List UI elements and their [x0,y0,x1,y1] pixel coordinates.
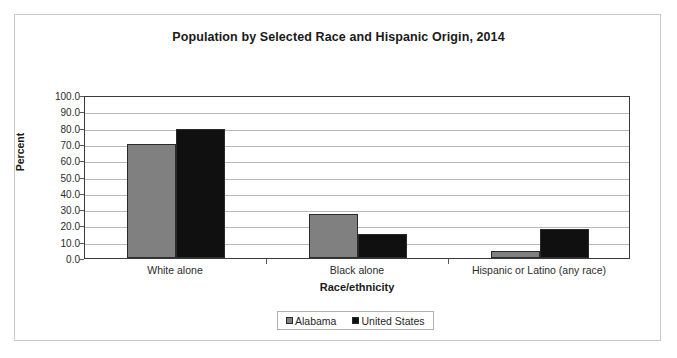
y-axis-tick-label: 60.0 [36,156,80,167]
bar [491,251,540,258]
y-axis-tick-label: 40.0 [36,188,80,199]
y-axis-tick-label: 80.0 [36,123,80,134]
y-axis-tick-label: 90.0 [36,107,80,118]
legend-entry: Alabama [286,315,336,327]
legend-swatch-icon [352,317,359,324]
gridline [85,113,629,114]
chart-title: Population by Selected Race and Hispanic… [0,30,677,44]
x-axis-tick-label: White alone [147,264,202,276]
y-axis-tick-label: 20.0 [36,221,80,232]
x-axis-tick-label: Hispanic or Latino (any race) [472,264,606,276]
bar [176,129,225,258]
legend-entry: United States [352,315,424,327]
plot-area [84,96,630,259]
bar [540,229,589,258]
legend-label: Alabama [295,315,336,327]
x-axis-title: Race/ethnicity [84,281,630,293]
legend-swatch-icon [286,317,293,324]
chart-figure: Population by Selected Race and Hispanic… [0,0,677,358]
bar [358,234,407,258]
y-axis-title: Percent [14,102,26,202]
chart-legend: AlabamaUnited States [277,311,434,330]
y-axis-tick-labels: 100.090.080.070.060.050.040.030.020.010.… [36,96,80,259]
y-axis-tick-label: 70.0 [36,139,80,150]
y-axis-tick-label: 30.0 [36,205,80,216]
x-axis-tick-labels: White aloneBlack aloneHispanic or Latino… [84,264,630,280]
y-axis-tick-label: 50.0 [36,172,80,183]
y-axis-tick-label: 0.0 [36,254,80,265]
gridline [85,130,629,131]
y-axis-tick-label: 10.0 [36,237,80,248]
bar [309,214,358,258]
x-axis-tick-label: Black alone [330,264,384,276]
y-axis-tick-label: 100.0 [36,91,80,102]
bar [127,144,176,258]
legend-label: United States [361,315,424,327]
